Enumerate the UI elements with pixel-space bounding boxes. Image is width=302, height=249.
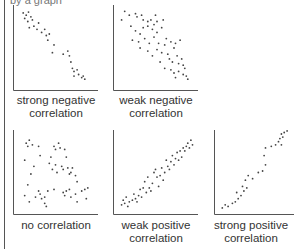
data-point [181,58,183,60]
data-point [53,189,55,191]
data-point [246,187,248,189]
data-point [32,19,34,21]
data-point [245,179,247,181]
data-point [148,42,150,44]
data-point [69,55,71,57]
data-point [175,158,177,160]
data-point [150,19,152,21]
data-point [282,136,284,138]
data-point [283,132,285,134]
data-point [61,165,63,167]
data-point [122,199,124,201]
data-point [136,16,138,18]
data-point [87,187,89,189]
data-point [39,193,41,195]
data-point [187,142,189,144]
data-point [67,167,69,169]
data-point [242,186,244,188]
data-point [263,155,265,157]
data-point [76,181,78,183]
data-point [141,14,143,16]
data-point [184,150,186,152]
data-point [135,13,137,15]
chart-strong-negative [13,5,98,91]
data-point [84,189,86,191]
caption-no-correlation: no correlation [0,219,112,232]
data-point [27,21,29,23]
data-point [181,156,183,158]
data-point [164,44,166,46]
data-point [50,156,52,158]
data-point [142,27,144,29]
data-point [158,42,160,44]
data-point [41,198,43,200]
data-point [159,175,161,177]
data-point [247,175,249,177]
data-point [237,198,239,200]
data-point [243,190,245,192]
data-point [32,144,34,146]
data-point [161,167,163,169]
caption-line: correlation [100,232,212,245]
data-point [172,61,174,63]
data-point [179,150,181,152]
data-point [178,71,180,73]
data-point [156,176,158,178]
data-point [164,172,166,174]
data-point [167,165,169,167]
axes [114,5,199,91]
scatter-plot [113,130,198,215]
data-point [124,10,126,12]
caption-weak-negative: weak negative correlation [100,94,212,120]
data-point [184,67,186,69]
data-point [281,144,283,146]
data-point [47,190,49,192]
data-point [153,24,155,26]
data-point [150,190,152,192]
data-point [156,32,158,34]
axes [14,5,99,91]
data-point [45,35,47,37]
data-point [221,207,223,209]
data-point [30,16,32,18]
data-point [227,206,229,208]
data-point [172,155,174,157]
data-point [286,130,288,132]
data-point [130,25,132,27]
data-point [148,187,150,189]
data-point [182,147,184,149]
data-point [167,53,169,55]
axes [114,130,199,215]
data-point [84,78,86,80]
data-point [152,182,154,184]
data-point [78,74,80,76]
caption-line: correlation [0,107,112,120]
data-point [121,19,123,21]
data-point [170,41,172,43]
data-point [24,159,26,161]
data-point [73,71,75,73]
data-point [138,41,140,43]
data-point [153,36,155,38]
data-point [240,195,242,197]
data-point [139,47,141,49]
data-point [53,145,55,147]
chart-weak-positive [113,130,198,215]
data-point [234,201,236,203]
data-point [147,21,149,23]
data-point [70,196,72,198]
caption-line: no correlation [0,219,112,232]
data-point [52,52,54,54]
data-point [76,69,78,71]
data-point [58,142,60,144]
data-point [28,27,30,29]
data-point [170,161,172,163]
data-point [178,63,180,65]
data-point [62,53,64,55]
data-point [175,42,177,44]
data-point [155,169,157,171]
caption-strong-negative: strong negative correlation [0,94,112,120]
data-point [189,147,191,149]
data-point [81,77,83,79]
data-point [165,38,167,40]
